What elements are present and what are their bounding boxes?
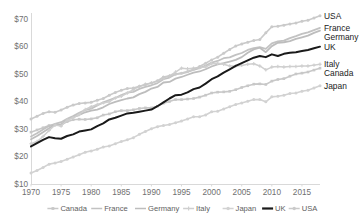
series-marker-usa (210, 58, 213, 61)
series-marker-usa (102, 97, 105, 100)
legend-item-france[interactable]: France (91, 204, 128, 213)
series-marker-usa (150, 82, 153, 85)
series-marker-usa (288, 23, 291, 26)
series-marker-canada (114, 110, 117, 113)
series-marker-usa (198, 65, 201, 68)
series-marker-japan (126, 138, 129, 141)
series-marker-usa (258, 38, 261, 41)
series-marker-canada (210, 92, 213, 95)
series-marker-canada (271, 80, 274, 83)
series-marker-italy (282, 65, 285, 68)
series-marker-italy (228, 64, 231, 67)
series-marker-usa (138, 85, 141, 88)
series-marker-japan (72, 155, 75, 158)
y-tick-label: $50 (14, 70, 28, 79)
legend-item-canada[interactable]: Canada (47, 204, 87, 213)
series-marker-usa (186, 70, 189, 73)
series-marker-japan (138, 133, 141, 136)
series-marker-canada (96, 117, 99, 120)
series-marker-canada (144, 107, 147, 110)
series-end-label-canada: Canada (324, 68, 354, 78)
series-marker-canada (313, 69, 316, 72)
series-marker-canada (319, 67, 322, 70)
series-marker-usa (96, 99, 99, 102)
series-marker-usa (60, 109, 63, 112)
line-chart: $10$20$30$40$50$60$70 197019751980198519… (0, 0, 359, 223)
series-marker-usa (72, 104, 75, 107)
series-marker-canada (132, 109, 135, 112)
series-marker-canada (307, 71, 310, 74)
series-end-label-japan: Japan (324, 81, 347, 91)
series-marker-italy (306, 64, 309, 67)
series-marker-japan (54, 162, 57, 165)
series-marker-japan (288, 92, 291, 95)
series-marker-japan (282, 94, 285, 97)
series-marker-canada (277, 78, 280, 81)
series-marker-canada (283, 77, 286, 80)
series-marker-usa (66, 106, 69, 109)
series-marker-usa (234, 45, 237, 48)
series-marker-japan (120, 140, 123, 143)
series-marker-japan (204, 114, 207, 117)
series-end-label-germany: Germany (324, 32, 359, 42)
series-marker-canada (295, 73, 298, 76)
series-marker-usa (228, 48, 231, 51)
series-marker-japan (150, 127, 153, 130)
series-marker-japan (96, 148, 99, 151)
legend-label: Italy (196, 204, 210, 213)
legend-item-italy[interactable]: Italy (183, 204, 210, 213)
series-marker-japan (42, 166, 45, 169)
legend-item-usa[interactable]: USA (289, 204, 319, 213)
series-marker-canada (246, 85, 249, 88)
series-marker-usa (132, 87, 135, 90)
legend-label: UK (275, 204, 286, 213)
legend-item-germany[interactable]: Germany (135, 204, 179, 213)
series-marker-usa (192, 68, 195, 71)
series-marker-japan (234, 103, 237, 106)
series-marker-canada (36, 129, 39, 132)
series-marker-japan (144, 130, 147, 133)
series-marker-canada (108, 113, 111, 116)
y-tick-labels: $10$20$30$40$50$60$70 (14, 15, 28, 189)
series-marker-usa (78, 102, 81, 105)
series-marker-japan (66, 158, 69, 161)
series-marker-canada (252, 83, 255, 86)
series-marker-usa (48, 110, 51, 113)
series-marker-japan (252, 98, 255, 101)
series-marker-japan (78, 153, 81, 156)
series-marker-italy (288, 65, 291, 68)
series-marker-canada (90, 118, 93, 121)
x-tick-label: 1990 (142, 188, 161, 197)
series-marker-italy (300, 64, 303, 67)
series-marker-italy (246, 63, 249, 66)
series-marker-japan (222, 107, 225, 110)
series-marker-japan (192, 115, 195, 118)
series-marker-canada (138, 107, 141, 110)
legend-label: France (104, 204, 128, 213)
series-marker-usa (306, 19, 309, 22)
series-marker-usa (168, 74, 171, 77)
series-marker-usa (54, 111, 57, 114)
series-marker-canada (265, 83, 268, 86)
series-marker-usa (156, 79, 159, 82)
series-marker-canada (186, 98, 189, 101)
series-marker-usa (180, 72, 183, 75)
series-marker-usa (264, 31, 267, 34)
x-tick-label: 2000 (203, 188, 222, 197)
series-marker-japan (258, 98, 261, 101)
x-tick-label: 2015 (293, 188, 312, 197)
legend-item-japan[interactable]: Japan (223, 204, 257, 213)
series-marker-japan (246, 100, 249, 103)
series-marker-japan (240, 101, 243, 104)
y-tick-label: $60 (14, 42, 28, 51)
series-marker-japan (198, 115, 201, 118)
series-marker-usa (30, 117, 33, 120)
chart-legend: CanadaFranceGermanyItalyJapanUKUSA (47, 204, 318, 213)
x-tick-label: 2010 (263, 188, 282, 197)
legend-swatch-marker (293, 207, 296, 210)
legend-swatch-marker (226, 207, 229, 210)
legend-swatch-marker (187, 207, 191, 211)
legend-item-uk[interactable]: UK (262, 204, 286, 213)
series-marker-italy (294, 65, 297, 68)
series-marker-japan (300, 90, 303, 93)
